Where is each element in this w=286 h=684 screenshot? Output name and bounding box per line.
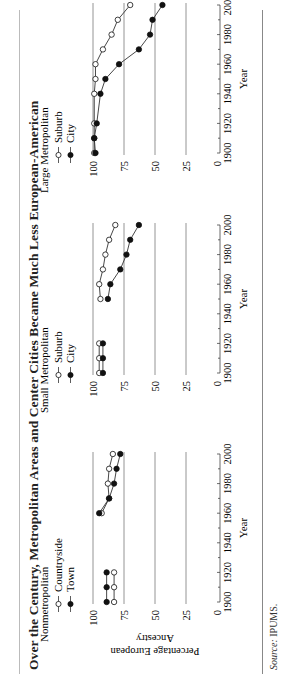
filled-data-point xyxy=(98,91,103,96)
open-data-point xyxy=(105,481,110,486)
x-tick-label: 1940 xyxy=(222,532,233,553)
legend-filled-marker-icon xyxy=(68,601,73,606)
x-tick-label: 1900 xyxy=(222,363,233,384)
open-data-point xyxy=(115,17,120,22)
open-data-point xyxy=(128,2,133,7)
x-tick-label: 2000 xyxy=(222,215,233,236)
y-tick-label: 50 xyxy=(150,161,161,172)
panel-title: Small Metropolitan xyxy=(38,327,50,413)
x-axis-label: Year xyxy=(237,518,249,539)
filled-data-point xyxy=(103,76,108,81)
filled-data-point xyxy=(104,570,109,575)
y-tick-label: 100 xyxy=(88,161,99,177)
legend-label: Town xyxy=(64,567,76,592)
x-tick-label: 1900 xyxy=(222,592,233,613)
filled-data-point xyxy=(100,341,105,346)
x-tick-label: 1920 xyxy=(222,333,233,354)
open-data-point xyxy=(111,585,116,590)
filled-data-point xyxy=(160,2,165,7)
x-axis-label: Year xyxy=(237,289,249,310)
legend-filled-marker-icon xyxy=(68,372,73,377)
open-data-point xyxy=(109,32,114,37)
filled-data-point xyxy=(104,599,109,604)
legend-open-marker-icon xyxy=(56,152,61,157)
open-data-point xyxy=(113,222,118,227)
open-data-point xyxy=(110,451,115,456)
x-tick-label: 1960 xyxy=(222,54,233,75)
y-tick-label: 75 xyxy=(119,381,130,392)
source-label: Source: xyxy=(268,639,279,670)
open-data-point xyxy=(106,466,111,471)
filled-data-point xyxy=(94,121,99,126)
y-tick-label: 25 xyxy=(181,610,192,621)
filled-data-point xyxy=(147,32,152,37)
x-tick-label: 1980 xyxy=(222,473,233,494)
x-tick-label: 2000 xyxy=(222,444,233,465)
x-axis-label: Year xyxy=(237,69,249,90)
open-data-point xyxy=(111,570,116,575)
filled-data-point xyxy=(114,466,119,471)
filled-data-point xyxy=(100,370,105,375)
filled-data-point xyxy=(116,62,121,67)
open-data-point xyxy=(106,237,111,242)
figure: Over the Century, Metropolitan Areas and… xyxy=(0,0,286,684)
legend-open-marker-icon xyxy=(56,601,61,606)
x-tick-label: 1960 xyxy=(222,274,233,295)
filled-data-point xyxy=(124,252,129,257)
x-tick-label: 1920 xyxy=(222,113,233,134)
filled-data-point xyxy=(97,511,102,516)
open-data-point xyxy=(111,599,116,604)
open-data-point xyxy=(100,267,105,272)
y-tick-label: 50 xyxy=(150,610,161,621)
panel-title: Large Metropolitan xyxy=(38,107,50,193)
series-line xyxy=(99,225,115,299)
x-tick-label: 2000 xyxy=(222,0,233,16)
y-tick-label: 50 xyxy=(150,381,161,392)
source-text: IPUMS. xyxy=(268,604,279,637)
y-tick-label: 75 xyxy=(119,610,130,621)
x-tick-label: 1980 xyxy=(222,244,233,265)
filled-data-point xyxy=(108,282,113,287)
source-note: Source: IPUMS. xyxy=(268,604,279,670)
y-axis-label: Percentage European xyxy=(110,646,200,657)
filled-data-point xyxy=(136,47,141,52)
legend-label: City xyxy=(64,124,76,143)
open-data-point xyxy=(100,47,105,52)
series-line xyxy=(94,5,130,153)
x-tick-label: 1940 xyxy=(222,83,233,104)
y-axis-label-line2: Ancestry xyxy=(135,633,174,644)
filled-data-point xyxy=(150,17,155,22)
legend-label: Suburb xyxy=(52,331,64,363)
open-data-point xyxy=(93,76,98,81)
open-data-point xyxy=(97,282,102,287)
x-tick-label: 1960 xyxy=(222,503,233,524)
filled-data-point xyxy=(93,150,98,155)
y-tick-label: 75 xyxy=(119,161,130,172)
open-data-point xyxy=(103,252,108,257)
open-data-point xyxy=(93,62,98,67)
panel-title: Nonmetropolitan xyxy=(38,566,50,642)
y-tick-label: 100 xyxy=(88,610,99,626)
filled-data-point xyxy=(136,222,141,227)
y-tick-label: 0 xyxy=(212,161,223,166)
series-line xyxy=(108,225,139,299)
filled-data-point xyxy=(104,585,109,590)
legend-label: Suburb xyxy=(52,111,64,143)
legend-label: City xyxy=(64,344,76,363)
filled-data-point xyxy=(100,356,105,361)
y-tick-label: 100 xyxy=(88,381,99,397)
filled-data-point xyxy=(111,481,116,486)
y-tick-label: 25 xyxy=(181,381,192,392)
chart-panels: Percentage EuropeanAncestryNonmetropolit… xyxy=(0,0,286,684)
filled-data-point xyxy=(128,237,133,242)
open-data-point xyxy=(92,91,97,96)
legend-label: Countryside xyxy=(52,538,64,592)
filled-data-point xyxy=(106,496,111,501)
legend-open-marker-icon xyxy=(56,372,61,377)
x-tick-label: 1940 xyxy=(222,303,233,324)
filled-data-point xyxy=(118,451,123,456)
x-tick-label: 1920 xyxy=(222,562,233,583)
frame-bottom-rule xyxy=(262,10,263,674)
y-tick-label: 0 xyxy=(212,381,223,386)
filled-data-point xyxy=(105,296,110,301)
